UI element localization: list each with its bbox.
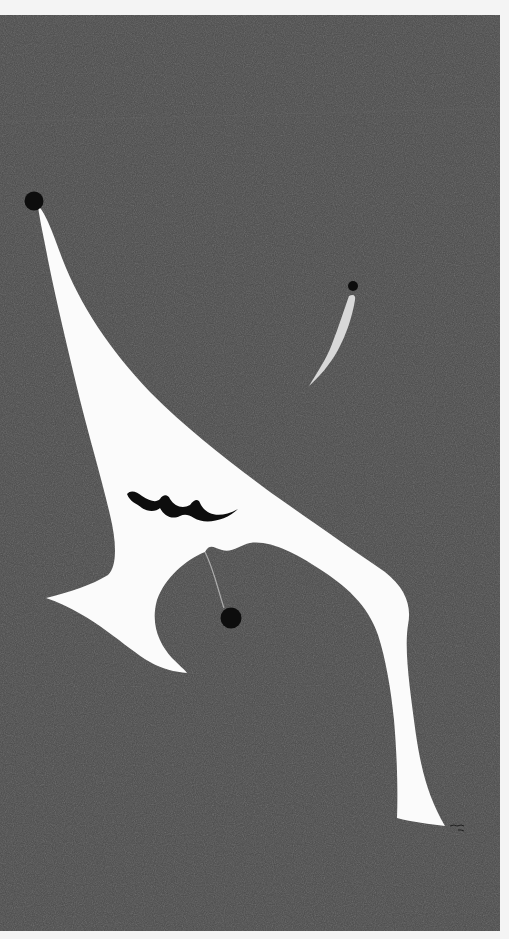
painting: [0, 0, 509, 939]
small-black-dot: [348, 281, 358, 291]
top-black-dot: [25, 192, 44, 211]
lower-black-dot: [221, 608, 242, 629]
